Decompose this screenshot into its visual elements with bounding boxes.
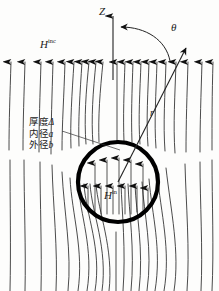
internal-field-symbol: H — [104, 189, 112, 201]
internal-field-label: Hin — [104, 189, 117, 201]
incident-field-superscript: inc — [48, 37, 56, 44]
outer-radius-label: 外径b — [29, 140, 54, 151]
thickness-symbol: Δ — [49, 117, 54, 127]
internal-field-superscript: in — [112, 188, 117, 195]
label-leader-line — [62, 131, 120, 150]
shell-dimension-labels: 厚度Δ 内径a 外径b — [29, 117, 54, 152]
incident-field-symbol: H — [40, 38, 48, 50]
incident-field-label: Hinc — [40, 38, 56, 50]
radius-label: r — [150, 108, 154, 118]
inner-radius-symbol: a — [49, 129, 54, 139]
figure-canvas: Z θ Hinc r Hin 厚度Δ 内径a 外径b — [0, 0, 219, 291]
theta-angle-label: θ — [171, 22, 176, 33]
outer-radius-symbol: b — [49, 140, 54, 150]
z-axis-label: Z — [99, 6, 105, 17]
theta-arc — [121, 27, 170, 61]
inner-radius-label: 内径a — [29, 129, 54, 140]
thickness-label: 厚度Δ — [29, 117, 54, 128]
